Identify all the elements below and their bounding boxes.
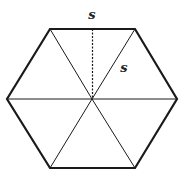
spoke-top-right xyxy=(92,29,135,99)
spoke-side-label: s xyxy=(120,60,128,75)
top-side-label: s xyxy=(88,7,96,22)
spoke-bottom-left xyxy=(50,99,92,168)
spokes xyxy=(7,29,177,168)
spoke-top-left xyxy=(50,29,92,99)
spoke-bottom-right xyxy=(92,99,135,168)
hexagon-diagram: s s xyxy=(0,0,185,175)
